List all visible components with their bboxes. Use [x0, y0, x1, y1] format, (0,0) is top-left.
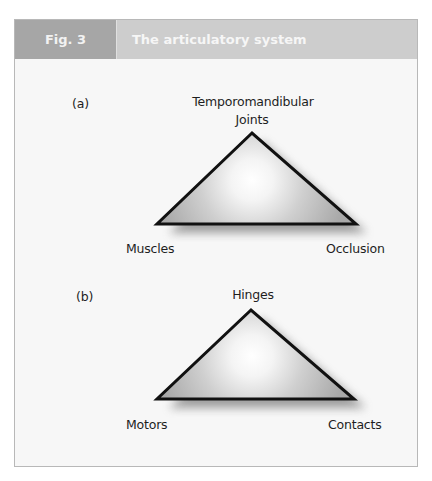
- vertex-left-label-a: Muscles: [126, 241, 174, 256]
- vertex-top-label-a-line1: Temporomandibular: [192, 94, 313, 109]
- vertex-right-label-b: Contacts: [328, 417, 382, 432]
- triangle-a: [157, 133, 367, 233]
- panel-a-label: (a): [72, 96, 89, 111]
- triangle-b: [157, 310, 366, 408]
- panel-b-label: (b): [76, 289, 93, 304]
- vertex-left-label-b: Motors: [126, 417, 167, 432]
- vertex-right-label-a: Occlusion: [326, 241, 385, 256]
- vertex-top-label-a-line2: Joints: [236, 112, 269, 127]
- vertex-top-label-b: Hinges: [232, 287, 274, 302]
